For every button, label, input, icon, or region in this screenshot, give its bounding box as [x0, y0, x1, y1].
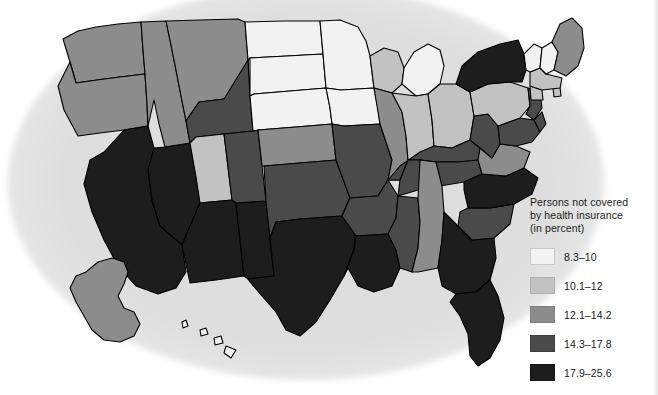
- state-hi: [182, 320, 236, 358]
- state-wa: [63, 22, 145, 83]
- legend-label: 12.1–14.2: [564, 309, 612, 321]
- legend-label: 8.3–10: [564, 251, 597, 263]
- legend-row: 14.3–17.8: [530, 335, 654, 353]
- state-me: [552, 18, 584, 76]
- state-sc: [458, 204, 514, 240]
- map-figure: Persons not covered by health insurance …: [0, 0, 658, 395]
- legend-row: 17.9–25.6: [530, 364, 654, 382]
- legend-title: Persons not covered by health insurance …: [530, 196, 654, 236]
- state-oh: [428, 84, 474, 148]
- state-wi: [370, 48, 404, 93]
- legend-swatch: [530, 364, 555, 381]
- legend-label: 10.1–12: [564, 280, 603, 292]
- legend-swatch: [530, 335, 555, 352]
- legend-class-list: 8.3–1010.1–1212.1–14.214.3–17.817.9–25.6: [530, 248, 654, 382]
- legend-row: 10.1–12: [530, 277, 654, 295]
- state-shapes: [58, 18, 584, 366]
- legend-row: 12.1–14.2: [530, 306, 654, 324]
- legend-swatch: [530, 248, 555, 265]
- legend-swatch: [530, 306, 555, 323]
- legend-label: 17.9–25.6: [564, 367, 612, 379]
- state-mn: [320, 20, 374, 90]
- legend-swatch: [530, 277, 555, 294]
- legend-row: 8.3–10: [530, 248, 654, 266]
- legend-label: 14.3–17.8: [564, 338, 612, 350]
- state-ia: [326, 88, 380, 126]
- state-vt: [524, 44, 542, 72]
- map-legend: Persons not covered by health insurance …: [530, 196, 654, 393]
- state-ks: [258, 124, 336, 166]
